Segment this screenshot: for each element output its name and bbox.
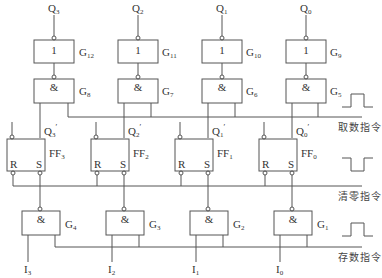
ff-label-ff3: FF3 bbox=[49, 147, 65, 163]
and-gate-symbol: & bbox=[105, 213, 145, 225]
gate-label-g2: G2 bbox=[233, 218, 244, 234]
register-circuit-diagram bbox=[0, 0, 382, 278]
ff-output-label-q0: Q0′ bbox=[296, 122, 309, 141]
gate-label-g3: G3 bbox=[149, 218, 160, 234]
reset-pin-label: R bbox=[10, 158, 17, 170]
gate-label-g8: G8 bbox=[79, 85, 90, 101]
output-label-q1: Q1 bbox=[216, 2, 227, 18]
gate-label-g9: G9 bbox=[330, 46, 341, 62]
clear-instruction-label: 清零指令 bbox=[338, 191, 382, 203]
fetch-pulse-icon bbox=[342, 94, 373, 107]
clear-pulse-icon bbox=[342, 158, 373, 171]
store-pulse-icon bbox=[342, 223, 373, 236]
reset-pin-label: R bbox=[178, 158, 185, 170]
input-label-i1: I1 bbox=[192, 263, 199, 278]
gate-label-g10: G10 bbox=[246, 46, 261, 62]
and-gate-symbol: & bbox=[273, 213, 313, 225]
input-label-i0: I0 bbox=[276, 263, 283, 278]
input-label-i3: I3 bbox=[24, 263, 31, 278]
fetch-instruction-label: 取数指令 bbox=[338, 122, 382, 134]
and-gate-symbol: & bbox=[118, 81, 158, 93]
reset-pin-label: R bbox=[262, 158, 269, 170]
set-pin-label: S bbox=[204, 158, 210, 170]
and-gate-symbol: & bbox=[286, 81, 326, 93]
ff-output-label-q3: Q3′ bbox=[44, 122, 57, 141]
store-instruction-label: 存数指令 bbox=[338, 252, 382, 264]
output-label-q2: Q2 bbox=[132, 2, 143, 18]
ff-label-ff0: FF0 bbox=[301, 147, 317, 163]
gate-label-g11: G11 bbox=[162, 46, 177, 62]
input-label-i2: I2 bbox=[108, 263, 115, 278]
gate-label-g5: G5 bbox=[330, 85, 341, 101]
set-pin-label: S bbox=[288, 158, 294, 170]
and-gate-symbol: & bbox=[21, 213, 61, 225]
ff-output-label-q1: Q1′ bbox=[212, 122, 225, 141]
ff-label-ff1: FF1 bbox=[217, 147, 233, 163]
gate-label-g4: G4 bbox=[65, 218, 76, 234]
ff-output-label-q2: Q2′ bbox=[128, 122, 141, 141]
and-gate-symbol: & bbox=[202, 81, 242, 93]
output-label-q3: Q3 bbox=[48, 2, 59, 18]
not-gate-symbol: 1 bbox=[118, 44, 158, 56]
reset-pin-label: R bbox=[94, 158, 101, 170]
gate-label-g12: G12 bbox=[79, 46, 94, 62]
output-label-q0: Q0 bbox=[300, 2, 311, 18]
gate-label-g7: G7 bbox=[162, 85, 173, 101]
and-gate-symbol: & bbox=[189, 213, 229, 225]
gate-label-g6: G6 bbox=[246, 85, 257, 101]
not-gate-symbol: 1 bbox=[286, 44, 326, 56]
set-pin-label: S bbox=[36, 158, 42, 170]
not-gate-symbol: 1 bbox=[202, 44, 242, 56]
not-gate-symbol: 1 bbox=[34, 44, 74, 56]
and-gate-symbol: & bbox=[34, 81, 74, 93]
set-pin-label: S bbox=[120, 158, 126, 170]
gate-label-g1: G1 bbox=[317, 218, 328, 234]
ff-label-ff2: FF2 bbox=[133, 147, 149, 163]
